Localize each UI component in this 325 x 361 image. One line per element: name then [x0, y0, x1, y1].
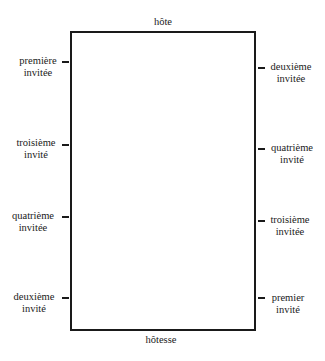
right-seat-1-line2: invitée — [263, 73, 319, 85]
left-seat-3: quatrième invitée — [4, 210, 62, 234]
left-seat-1-line1: première — [10, 55, 66, 67]
left-seat-2: troisième invité — [8, 137, 64, 161]
left-seat-4-line1: deuxième — [6, 291, 62, 303]
right-seat-3: troisième invitée — [262, 214, 318, 238]
left-seat-3-line2: invitée — [4, 222, 62, 234]
right-seat-1-line1: deuxième — [263, 61, 319, 73]
left-seat-2-line1: troisième — [8, 137, 64, 149]
right-seat-2-line1: quatrième — [264, 142, 320, 154]
left-seat-4-line2: invité — [6, 303, 62, 315]
hostess-label: hôtesse — [121, 334, 201, 345]
right-seat-4-line2: invité — [262, 304, 314, 316]
left-seat-1-tick — [62, 61, 69, 63]
right-seat-3-line1: troisième — [262, 214, 318, 226]
left-seat-1-line2: invitée — [10, 67, 66, 79]
left-seat-2-line2: invité — [8, 149, 64, 161]
left-seat-2-tick — [62, 144, 69, 146]
left-seat-3-line1: quatrième — [4, 210, 62, 222]
host-label: hôte — [123, 16, 203, 27]
left-seat-4: deuxième invité — [6, 291, 62, 315]
right-seat-4-line1: premier — [262, 292, 314, 304]
right-seat-2: quatrième invité — [264, 142, 320, 166]
right-seat-3-line2: invitée — [262, 226, 318, 238]
right-seat-4: premier invité — [262, 292, 314, 316]
right-seat-1: deuxième invitée — [263, 61, 319, 85]
left-seat-1: première invitée — [10, 55, 66, 79]
table-rectangle — [70, 31, 256, 331]
left-seat-3-tick — [62, 216, 69, 218]
right-seat-2-line2: invité — [264, 154, 320, 166]
left-seat-4-tick — [62, 297, 69, 299]
